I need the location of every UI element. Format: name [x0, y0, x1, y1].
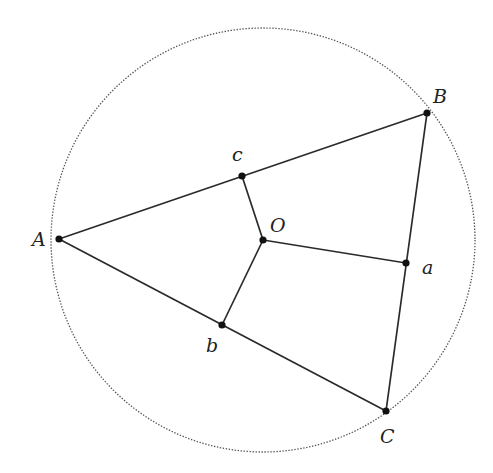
point-B [423, 109, 430, 116]
label-c: c [232, 143, 243, 165]
segment-Oc [242, 176, 263, 240]
label-b: b [206, 334, 218, 356]
circumcircle-figure: ABCOabc [0, 0, 493, 473]
point-b [218, 321, 225, 328]
label-C: C [380, 425, 395, 447]
point-A [55, 235, 62, 242]
label-a: a [422, 256, 433, 278]
point-a [402, 259, 409, 266]
point-O [259, 236, 266, 243]
label-A: A [30, 228, 46, 250]
segments-group [59, 113, 427, 411]
point-c [238, 172, 245, 179]
labels-group: ABCOabc [30, 85, 447, 447]
label-O: O [270, 214, 286, 236]
point-C [382, 407, 389, 414]
segment-Ob [222, 240, 263, 325]
points-group [55, 109, 430, 414]
label-B: B [432, 85, 447, 107]
diagram-canvas: ABCOabc [0, 0, 493, 473]
segment-Oa [263, 240, 406, 263]
